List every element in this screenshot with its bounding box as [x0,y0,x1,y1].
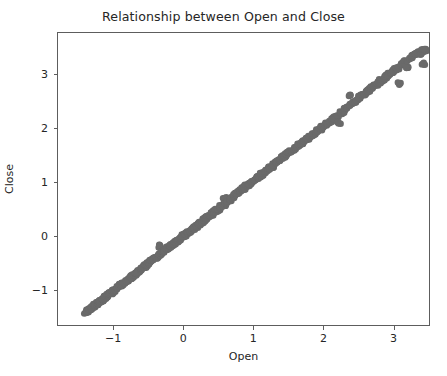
scatter-point [403,64,409,70]
y-tick-mark [54,128,58,129]
x-tick-label: 3 [390,332,397,345]
chart-title: Relationship between Open and Close [0,9,447,24]
y-tick-label: −1 [32,283,48,296]
y-tick-label: 1 [41,175,48,188]
y-tick-label: 0 [41,229,48,242]
scatter-point [337,120,343,126]
scatter-point [346,93,352,99]
scatter-points-layer [58,33,429,325]
x-tick-label: 2 [320,332,327,345]
x-tick-mark [323,326,324,330]
y-tick-label: 2 [41,122,48,135]
scatter-point [395,79,401,85]
y-tick-mark [54,290,58,291]
matplotlib-figure: Relationship between Open and Close −101… [0,0,447,376]
x-tick-mark [113,326,114,330]
x-axis-label: Open [57,350,430,363]
scatter-point [420,61,426,67]
y-tick-label: 3 [41,68,48,81]
x-tick-label: 1 [250,332,257,345]
y-tick-mark [54,74,58,75]
x-tick-label: −1 [105,332,121,345]
x-tick-label: 0 [180,332,187,345]
y-tick-mark [54,236,58,237]
x-tick-mark [394,326,395,330]
scatter-point [420,46,426,52]
y-axis-label: Close [3,164,16,194]
y-tick-mark [54,182,58,183]
x-tick-mark [183,326,184,330]
plot-axes-area [57,32,430,326]
x-tick-mark [253,326,254,330]
